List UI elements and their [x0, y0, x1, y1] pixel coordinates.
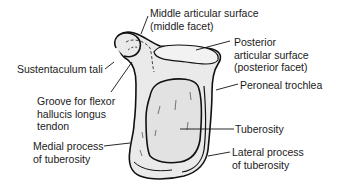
label-line: (posterior facet) [234, 61, 309, 74]
label-posterior-articular-surface: Posterior articular surface (posterior f… [234, 36, 309, 74]
label-line: Groove for flexor [37, 95, 115, 108]
label-line: Peroneal trochlea [240, 79, 322, 91]
label-line: Lateral process [232, 146, 304, 159]
label-line: Tuberosity [235, 123, 284, 135]
tuberosity-outline [146, 79, 201, 163]
label-line: of tuberosity [33, 153, 104, 166]
label-line: Posterior [234, 36, 309, 49]
label-line: articular surface [234, 49, 309, 62]
calcaneus-diagram: Middle articular surface (middle facet) … [0, 0, 337, 183]
label-middle-articular-surface: Middle articular surface (middle facet) [150, 7, 259, 32]
label-lateral-process: Lateral process of tuberosity [232, 146, 304, 171]
label-peroneal-trochlea: Peroneal trochlea [240, 79, 322, 92]
label-tuberosity: Tuberosity [235, 123, 284, 136]
label-line: Medial process [33, 140, 104, 153]
label-line: tendon [37, 120, 115, 133]
label-medial-process: Medial process of tuberosity [33, 140, 104, 165]
label-line: Middle articular surface [150, 7, 259, 20]
label-line: of tuberosity [232, 159, 304, 172]
label-groove-fhl-tendon: Groove for flexor hallucis longus tendon [37, 95, 115, 133]
label-line: Sustentaculum tali [17, 63, 103, 75]
label-line: hallucis longus [37, 108, 115, 121]
label-line: (middle facet) [150, 20, 259, 33]
label-sustentaculum-tali: Sustentaculum tali [17, 63, 103, 76]
